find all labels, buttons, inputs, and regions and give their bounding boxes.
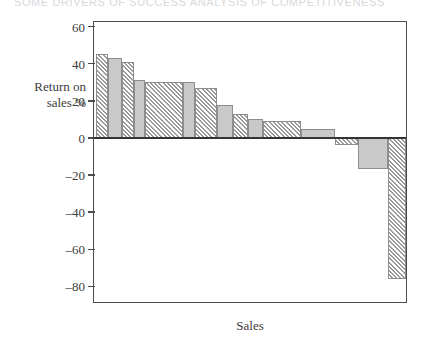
chart-bar xyxy=(263,121,301,138)
chart-bar xyxy=(388,138,406,279)
y-axis-tick-label: –40 xyxy=(66,206,86,219)
chart-bar xyxy=(134,80,145,138)
y-axis-tick-label: –80 xyxy=(66,280,86,293)
y-axis-tick xyxy=(88,174,95,175)
x-axis-title: Sales xyxy=(93,318,407,334)
y-axis-tick xyxy=(88,100,95,101)
y-axis-tick-label: –60 xyxy=(66,243,86,256)
cutoff-page-header: SOME DRIVERS OF SUCCESS ANALYSIS OF COMP… xyxy=(0,0,422,11)
y-axis-tick xyxy=(88,63,95,64)
y-axis-tick xyxy=(88,286,95,287)
chart-bar xyxy=(248,119,263,138)
y-axis-tick-label: 20 xyxy=(72,94,85,107)
y-axis-tick-label: 60 xyxy=(72,20,85,33)
y-axis-tick-label: 40 xyxy=(72,57,85,70)
chart-bar xyxy=(195,88,218,138)
y-axis-tick xyxy=(88,249,95,250)
y-axis-tick xyxy=(88,211,95,212)
chart-bar xyxy=(358,138,388,170)
y-axis-tick-label: 0 xyxy=(79,131,86,144)
chart-bar xyxy=(217,105,232,138)
chart-bar xyxy=(145,82,183,138)
chart-bar xyxy=(122,62,134,138)
chart-bar xyxy=(183,82,195,138)
y-axis-tick xyxy=(88,26,95,27)
y-axis-tick-label: –20 xyxy=(66,169,86,182)
chart-bar xyxy=(108,58,122,138)
chart-bar xyxy=(335,138,359,145)
chart-bar xyxy=(96,54,108,137)
cutoff-header-text: SOME DRIVERS OF SUCCESS ANALYSIS OF COMP… xyxy=(14,0,385,8)
plot-frame: 6040200–20–40–60–80 xyxy=(93,21,407,303)
plot-area: 6040200–20–40–60–80 xyxy=(94,22,406,302)
zero-baseline xyxy=(94,137,406,139)
chart-bar xyxy=(233,114,248,138)
